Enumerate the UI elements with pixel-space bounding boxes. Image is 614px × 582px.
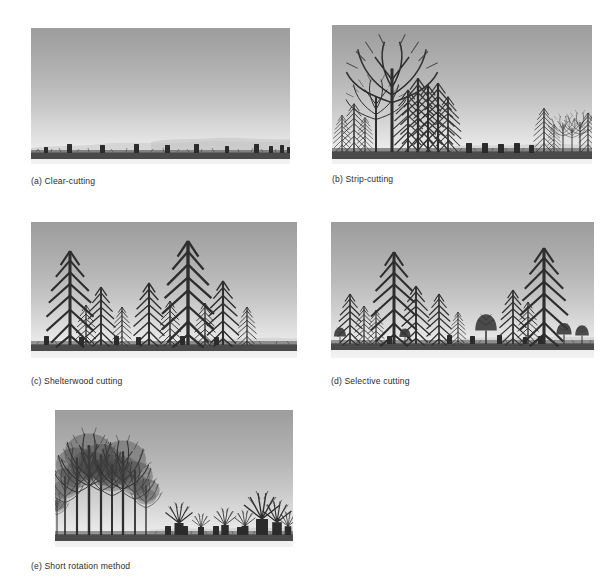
panel-short-rotation-method: [55, 410, 293, 547]
stump: [79, 337, 84, 345]
stump: [165, 145, 170, 153]
stump: [214, 337, 219, 345]
panel-shelterwood-cutting: [31, 222, 297, 358]
caption-shelterwood-cutting: (c) Shelterwood cutting: [31, 376, 122, 386]
scene-short-rotation-method: [55, 410, 293, 547]
stump: [529, 145, 534, 153]
stump: [100, 145, 105, 153]
ground-line: [332, 151, 592, 159]
illustration-selective-cutting: [331, 222, 594, 358]
stump: [114, 336, 119, 345]
scene-strip-cutting: [332, 25, 592, 164]
stump: [280, 145, 284, 153]
stump: [194, 144, 199, 153]
stump: [287, 147, 290, 153]
mature-strip-left: [333, 34, 461, 152]
stump: [523, 337, 527, 344]
stump: [136, 337, 141, 345]
stump: [213, 526, 219, 535]
stump: [225, 146, 229, 153]
caption-clear-cutting: (a) Clear-cutting: [31, 176, 95, 186]
stump: [482, 143, 488, 153]
caption-short-rotation-method: (e) Short rotation method: [31, 561, 130, 571]
stump: [538, 336, 543, 344]
stump: [180, 336, 185, 345]
stump: [447, 335, 452, 344]
understory-group: [76, 281, 257, 347]
caption-selective-cutting: (d) Selective cutting: [331, 376, 410, 386]
stump: [44, 147, 48, 153]
forest-harvesting-methods-figure: (a) Clear-cutting: [0, 0, 614, 582]
ground-line: [31, 152, 290, 159]
stump: [470, 336, 475, 344]
stump: [67, 144, 72, 153]
caption-strip-cutting: (b) Strip-cutting: [332, 174, 393, 184]
stump: [497, 335, 502, 344]
ground-line: [55, 534, 293, 541]
illustration-shelterwood-cutting: [31, 222, 297, 358]
scene-selective-cutting: [331, 222, 594, 358]
scene-shelterwood-cutting: [31, 222, 297, 358]
uneven-aged-stand: [334, 248, 589, 346]
scene-clear-cutting: [31, 28, 290, 164]
stump: [134, 144, 139, 153]
stump: [254, 144, 259, 153]
stump: [44, 336, 49, 345]
short-rotation-stand: [55, 428, 163, 535]
stump: [165, 526, 171, 535]
illustration-strip-cutting: [332, 25, 592, 164]
stump: [237, 527, 242, 535]
stump: [514, 143, 520, 153]
stump: [466, 143, 472, 153]
stump: [498, 144, 504, 153]
illustration-short-rotation-method: [55, 410, 293, 547]
panel-strip-cutting: [332, 25, 592, 164]
stump: [387, 336, 392, 344]
stump: [269, 146, 273, 153]
panel-selective-cutting: [331, 222, 594, 358]
illustration-clear-cutting: [31, 28, 290, 164]
panel-clear-cutting: [31, 28, 290, 164]
